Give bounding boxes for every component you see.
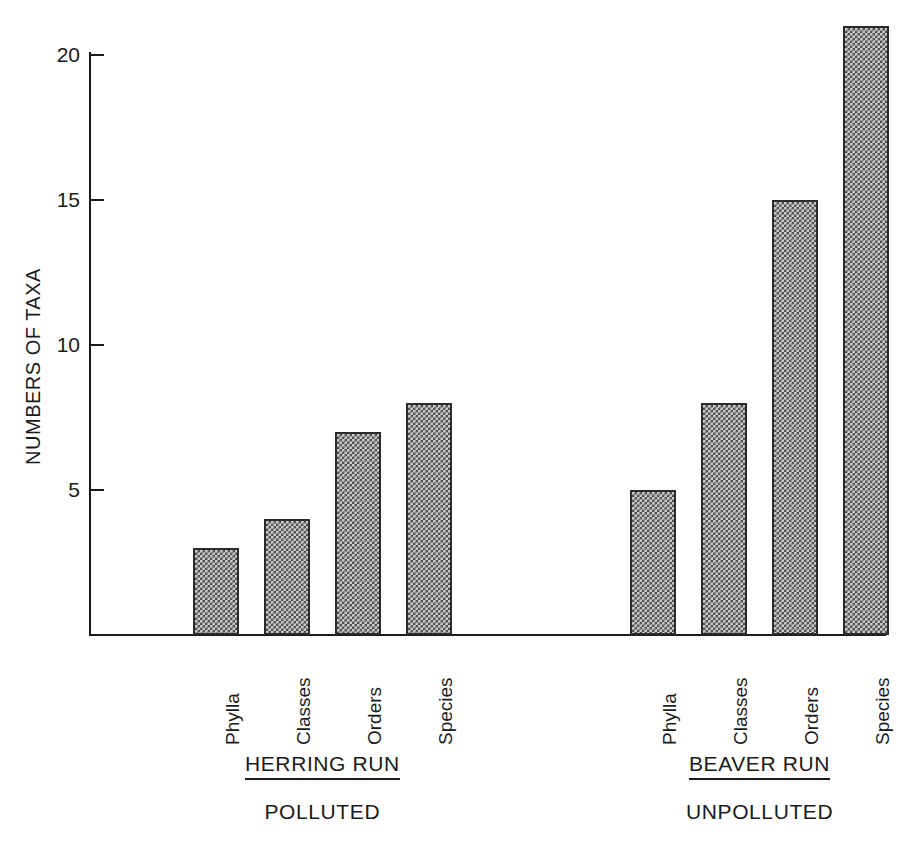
bar-beaver-orders <box>772 200 818 635</box>
group-label-herring-run: HERRING RUN <box>245 752 400 780</box>
bar-herring-phylla <box>193 548 239 635</box>
group-label-beaver-run: BEAVER RUN <box>689 752 830 780</box>
category-label-orders: Orders <box>802 687 821 745</box>
bar-beaver-classes <box>701 403 747 635</box>
bar-chart-figure: NUMBERS OF TAXA 2015105 PhyllaClassesOrd… <box>0 0 908 856</box>
category-label-species: Species <box>873 677 892 745</box>
category-label-species: Species <box>436 677 455 745</box>
group-status-unpolluted: UNPOLLUTED <box>686 800 833 824</box>
bar-herring-orders <box>335 432 381 635</box>
category-label-classes: Classes <box>731 677 750 745</box>
bar-beaver-phylla <box>630 490 676 635</box>
category-label-orders: Orders <box>365 687 384 745</box>
bar-herring-species <box>406 403 452 635</box>
category-label-classes: Classes <box>294 677 313 745</box>
group-status-polluted: POLLUTED <box>265 800 381 824</box>
category-label-phylla: Phylla <box>660 693 679 745</box>
category-label-phylla: Phylla <box>223 693 242 745</box>
bar-beaver-species <box>843 26 889 635</box>
bar-herring-classes <box>264 519 310 635</box>
